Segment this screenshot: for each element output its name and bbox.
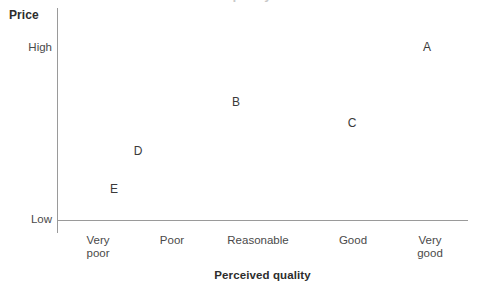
y-tick-label-high: High	[0, 41, 52, 53]
y-tick-label-low: Low	[0, 213, 52, 225]
y-axis-title: Price	[9, 8, 39, 22]
x-tick-line1: Very	[385, 234, 475, 247]
x-tick-line1: Reasonable	[213, 234, 303, 247]
x-tick-label-poor: Poor	[127, 234, 217, 247]
data-point-a: A	[415, 40, 439, 54]
price-quality-scatter-chart: quality Price Perceived quality High Low…	[0, 0, 478, 294]
y-axis-line	[57, 8, 58, 233]
x-tick-label-very-good: Very good	[385, 234, 475, 260]
data-point-b: B	[224, 95, 248, 109]
x-axis-line	[57, 220, 468, 221]
data-point-d: D	[126, 144, 150, 158]
x-axis-title: Perceived quality	[57, 269, 468, 281]
x-tick-line2: good	[385, 247, 475, 260]
clipped-chart-title: quality	[150, 0, 350, 2]
data-point-e: E	[102, 182, 126, 196]
data-point-c: C	[340, 116, 364, 130]
x-tick-line1: Poor	[127, 234, 217, 247]
x-tick-line2: poor	[53, 247, 143, 260]
x-tick-label-reasonable: Reasonable	[213, 234, 303, 247]
